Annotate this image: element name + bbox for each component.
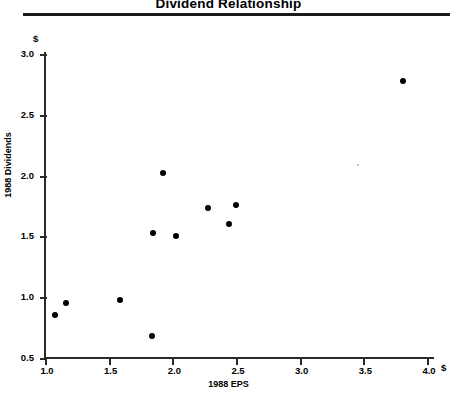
x-tick-label: 3.5 xyxy=(348,366,382,376)
y-tick-mark xyxy=(40,54,47,56)
data-point xyxy=(63,300,69,306)
data-point xyxy=(205,205,211,211)
chart-title-container: Dividend Relationship xyxy=(0,0,457,13)
y-axis-unit: $ xyxy=(33,33,38,44)
x-tick-mark xyxy=(363,358,365,365)
data-point xyxy=(233,202,239,208)
data-point xyxy=(52,312,58,318)
y-tick-mark xyxy=(40,236,47,238)
x-tick-mark xyxy=(109,358,111,365)
x-axis-title: 1988 EPS xyxy=(0,379,457,389)
y-tick-label: 0.5 xyxy=(8,353,34,363)
x-tick-mark xyxy=(172,358,174,365)
data-point xyxy=(226,221,232,227)
scan-artifact xyxy=(357,164,359,166)
data-point xyxy=(149,333,155,339)
chart-page: Dividend Relationship $ $ 0.51.01.52.02.… xyxy=(0,0,457,399)
x-tick-label: 1.0 xyxy=(30,366,64,376)
page-title: Dividend Relationship xyxy=(0,0,457,11)
x-tick-label: 2.0 xyxy=(157,366,191,376)
data-point xyxy=(400,78,406,84)
data-point xyxy=(117,297,123,303)
x-tick-label: 1.5 xyxy=(94,366,128,376)
y-axis-title: 1988 Dividends xyxy=(3,105,13,225)
y-tick-mark xyxy=(40,297,47,299)
y-tick-label: 1.5 xyxy=(8,231,34,241)
plot-area: 0.51.01.52.02.53.0 1.01.52.02.53.03.54.0 xyxy=(46,54,428,358)
data-point xyxy=(173,233,179,239)
y-tick-mark xyxy=(40,115,47,117)
x-tick-mark xyxy=(45,358,47,365)
x-tick-mark xyxy=(236,358,238,365)
data-point xyxy=(150,230,156,236)
x-tick-label: 4.0 xyxy=(412,366,446,376)
x-tick-label: 2.5 xyxy=(221,366,255,376)
y-tick-label: 3.0 xyxy=(8,49,34,59)
title-divider xyxy=(23,13,450,16)
x-tick-label: 3.0 xyxy=(285,366,319,376)
data-point xyxy=(160,170,166,176)
x-tick-mark xyxy=(300,358,302,365)
y-tick-mark xyxy=(40,176,47,178)
y-tick-label: 1.0 xyxy=(8,292,34,302)
x-tick-mark xyxy=(427,358,429,365)
